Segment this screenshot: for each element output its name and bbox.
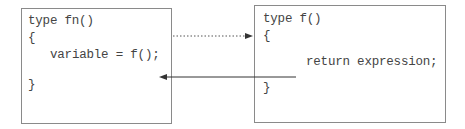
return-arrow <box>159 74 296 80</box>
flow-arrows <box>0 0 465 129</box>
call-arrow <box>173 33 253 39</box>
